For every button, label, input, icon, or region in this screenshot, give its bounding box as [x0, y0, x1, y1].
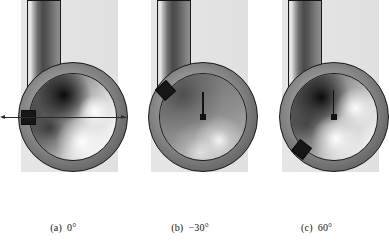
- caption-row: (a)0° (b)−30° (c)60°: [0, 218, 380, 242]
- panel-c-center-marker: [331, 114, 337, 120]
- caption-a: (a)0°: [0, 218, 127, 242]
- caption-c: (c)60°: [253, 218, 380, 242]
- caption-c-tag: (c): [301, 222, 313, 233]
- caption-c-angle: 60°: [318, 222, 333, 233]
- panel-c-marker-stem: [333, 90, 335, 116]
- caption-a-tag: (a): [50, 222, 62, 233]
- panel-b-center-marker: [200, 114, 206, 120]
- panel-c: [282, 0, 378, 218]
- caption-a-angle: 0°: [67, 222, 76, 233]
- panel-a-axis-arrow-left: [0, 115, 5, 119]
- panel-a-reference-axis: [2, 117, 126, 118]
- panel-a-axis-arrow-right: [121, 115, 126, 119]
- panel-b: [151, 0, 247, 218]
- panel-c-joint-assembly: [279, 62, 389, 172]
- panel-b-marker-stem: [202, 92, 204, 115]
- panel-row: [0, 0, 380, 218]
- panel-b-joint-assembly: [148, 62, 258, 172]
- panel-a: [21, 0, 117, 218]
- caption-b-angle: −30°: [188, 222, 208, 233]
- caption-b: (b)−30°: [127, 218, 254, 242]
- caption-b-tag: (b): [171, 222, 183, 233]
